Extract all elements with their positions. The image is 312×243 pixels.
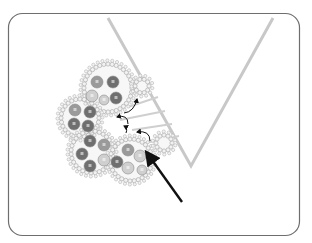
main-pointer-arrow — [147, 153, 182, 202]
figure — [0, 0, 312, 243]
curved-arrow — [124, 126, 127, 133]
diagram-canvas — [0, 0, 312, 243]
filament-line — [132, 124, 172, 130]
